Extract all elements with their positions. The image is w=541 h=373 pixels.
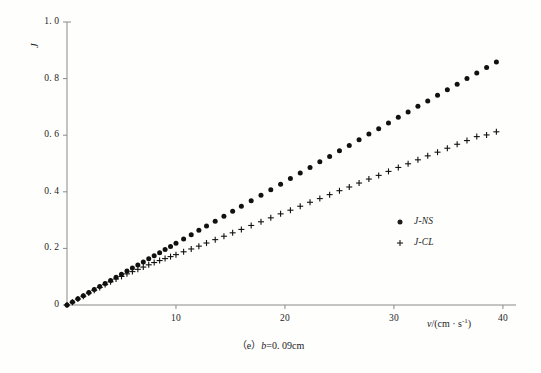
x-axis-title-close-paren: ): [468, 318, 471, 329]
x-tick-label-3: 40: [483, 314, 523, 324]
legend-markers: [397, 220, 403, 247]
y-tick-label-4: 0. 8: [23, 74, 59, 84]
x-axis-title-unit: /(cm · s: [431, 318, 462, 329]
axis-ticks: [63, 22, 503, 309]
y-tick-label-3: 0. 6: [23, 130, 59, 140]
y-tick-label-1: 0. 2: [23, 243, 59, 253]
figure-container: 00. 20. 40. 60. 81. 0 10203040 J v/(cm ·…: [0, 0, 541, 373]
x-tick-label-0: 10: [156, 314, 196, 324]
x-axis-title: v/(cm · s-1): [427, 318, 471, 329]
y-tick-label-5: 1. 0: [23, 17, 59, 27]
x-tick-label-1: 20: [265, 314, 305, 324]
series-j-ns-markers: [65, 59, 499, 307]
figure-caption: （e）b=0. 09cm: [0, 341, 541, 351]
y-tick-label-0: 0: [23, 300, 59, 310]
axis-spines: [67, 22, 516, 305]
series-j-cl-markers: [64, 129, 499, 308]
legend-label-j-cl: J-CL: [414, 238, 434, 248]
y-tick-label-2: 0. 4: [23, 187, 59, 197]
legend-label-j-ns: J-NS: [414, 217, 433, 227]
caption-index: （e）: [237, 340, 261, 351]
caption-value: =0. 09cm: [266, 340, 304, 351]
y-axis-title: J: [30, 43, 41, 48]
x-tick-label-2: 30: [374, 314, 414, 324]
